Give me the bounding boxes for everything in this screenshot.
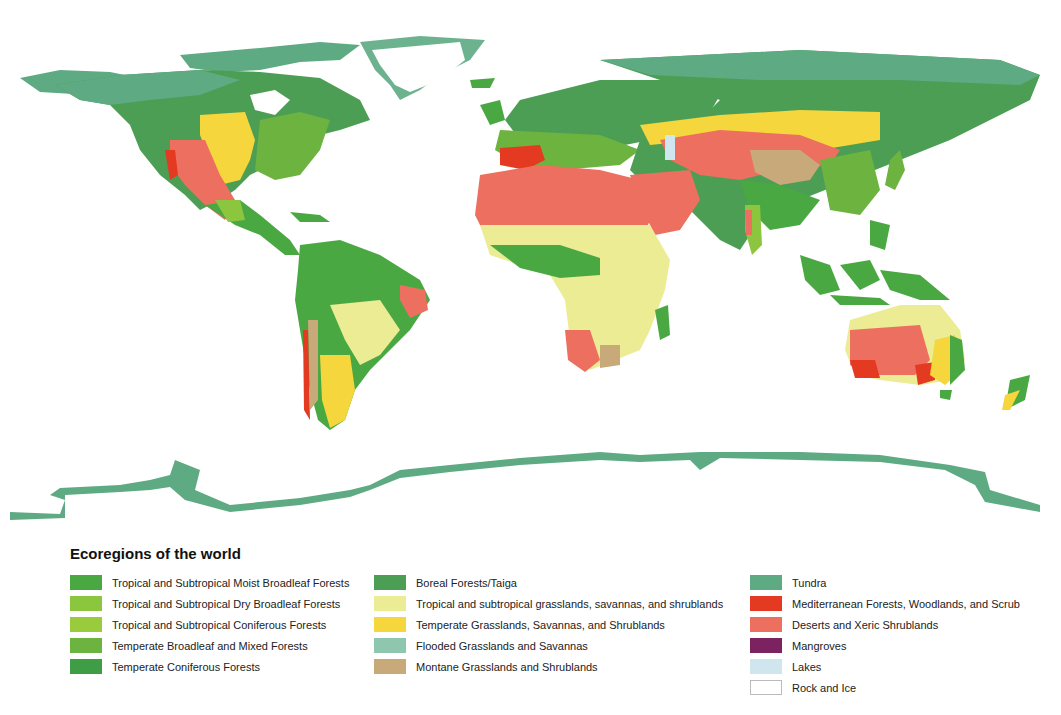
legend-label: Mediterranean Forests, Woodlands, and Sc… <box>792 598 1020 610</box>
world-ecoregions-map <box>0 0 1061 540</box>
swatch-boreal <box>374 575 406 590</box>
legend-label: Flooded Grasslands and Savannas <box>416 640 588 652</box>
legend-label: Montane Grasslands and Shrublands <box>416 661 598 673</box>
legend-item-boreal: Boreal Forests/Taiga <box>374 572 723 593</box>
legend-item-temp-grass: Temperate Grasslands, Savannas, and Shru… <box>374 614 723 635</box>
legend-column-1: Tropical and Subtropical Moist Broadleaf… <box>70 572 349 677</box>
legend-column-2: Boreal Forests/Taiga Tropical and subtro… <box>374 572 723 677</box>
swatch-temp-broad <box>70 638 102 653</box>
swatch-temp-grass <box>374 617 406 632</box>
legend-item-trop-conif: Tropical and Subtropical Coniferous Fore… <box>70 614 349 635</box>
legend-item-mangroves: Mangroves <box>750 635 1020 656</box>
legend-item-montane: Montane Grasslands and Shrublands <box>374 656 723 677</box>
southeast-asia <box>800 220 950 305</box>
legend: Ecoregions of the world Tropical and Sub… <box>0 540 1061 715</box>
legend-label: Tropical and subtropical grasslands, sav… <box>416 598 723 610</box>
legend-label: Mangroves <box>792 640 846 652</box>
legend-item-temp-broad: Temperate Broadleaf and Mixed Forests <box>70 635 349 656</box>
africa <box>475 165 700 372</box>
legend-item-trop-grass: Tropical and subtropical grasslands, sav… <box>374 593 723 614</box>
legend-item-lakes: Lakes <box>750 656 1020 677</box>
legend-label: Tropical and Subtropical Dry Broadleaf F… <box>112 598 340 610</box>
north-america <box>55 70 370 255</box>
swatch-med <box>750 596 782 611</box>
legend-label: Temperate Broadleaf and Mixed Forests <box>112 640 308 652</box>
swatch-mangroves <box>750 638 782 653</box>
legend-label: Boreal Forests/Taiga <box>416 577 517 589</box>
legend-label: Temperate Coniferous Forests <box>112 661 260 673</box>
legend-label: Temperate Grasslands, Savannas, and Shru… <box>416 619 665 631</box>
legend-label: Lakes <box>792 661 821 673</box>
legend-label: Tropical and Subtropical Moist Broadleaf… <box>112 577 349 589</box>
swatch-temp-conif <box>70 659 102 674</box>
legend-label: Rock and Ice <box>792 682 856 694</box>
australia <box>845 305 965 400</box>
antarctica-tundra <box>10 452 1040 520</box>
legend-item-rock-ice: Rock and Ice <box>750 677 1020 698</box>
greenland-ice <box>372 42 465 92</box>
legend-item-trop-moist: Tropical and Subtropical Moist Broadleaf… <box>70 572 349 593</box>
swatch-montane <box>374 659 406 674</box>
legend-item-flooded: Flooded Grasslands and Savannas <box>374 635 723 656</box>
legend-item-desert: Deserts and Xeric Shrublands <box>750 614 1020 635</box>
legend-column-3: Tundra Mediterranean Forests, Woodlands,… <box>750 572 1020 698</box>
legend-item-tundra: Tundra <box>750 572 1020 593</box>
legend-item-med: Mediterranean Forests, Woodlands, and Sc… <box>750 593 1020 614</box>
swatch-rock-ice <box>750 680 782 695</box>
swatch-trop-conif <box>70 617 102 632</box>
swatch-tundra <box>750 575 782 590</box>
legend-item-trop-dry: Tropical and Subtropical Dry Broadleaf F… <box>70 593 349 614</box>
legend-item-temp-conif: Temperate Coniferous Forests <box>70 656 349 677</box>
swatch-trop-moist <box>70 575 102 590</box>
legend-title: Ecoregions of the world <box>70 545 241 562</box>
swatch-desert <box>750 617 782 632</box>
south-america <box>295 240 430 430</box>
swatch-lakes <box>750 659 782 674</box>
swatch-trop-dry <box>70 596 102 611</box>
legend-label: Deserts and Xeric Shrublands <box>792 619 938 631</box>
legend-label: Tropical and Subtropical Coniferous Fore… <box>112 619 326 631</box>
swatch-trop-grass <box>374 596 406 611</box>
legend-label: Tundra <box>792 577 826 589</box>
caribbean <box>290 212 330 222</box>
swatch-flooded <box>374 638 406 653</box>
